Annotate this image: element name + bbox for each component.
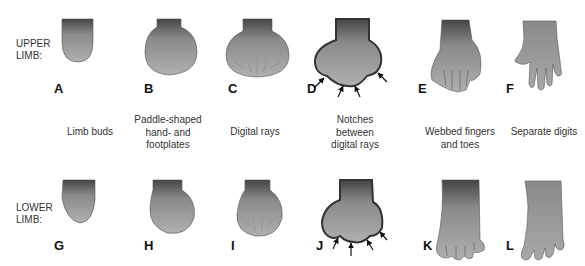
- stage-label-separate-digits: Separate digits: [502, 126, 585, 139]
- stage-label-notches: Notches between digital rays: [315, 114, 395, 152]
- letter-g: G: [54, 238, 64, 253]
- stage-label-limb-buds: Limb buds: [50, 126, 130, 139]
- letter-a: A: [54, 81, 63, 96]
- stage-label-paddle-shaped: Paddle-shaped hand- and footplates: [128, 114, 208, 152]
- shape-g-limb-bud: [62, 180, 95, 223]
- letter-d: D: [307, 81, 316, 96]
- stage-label-line: digital rays: [315, 139, 395, 152]
- stage-label-line: and toes: [415, 139, 505, 152]
- stage-label-line: Paddle-shaped: [128, 114, 208, 127]
- stage-label-line: Separate digits: [502, 126, 585, 139]
- stage-label-line: Digital rays: [215, 126, 295, 139]
- letter-k: K: [423, 238, 432, 253]
- stage-label-line: Webbed fingers: [415, 126, 505, 139]
- shape-e-webbed-fingers: [431, 20, 481, 92]
- letter-l: L: [506, 238, 514, 253]
- shape-i-digital-rays: [237, 180, 282, 236]
- shape-a-limb-bud: [62, 19, 93, 62]
- letter-j: J: [316, 238, 323, 253]
- stage-label-digital-rays: Digital rays: [215, 126, 295, 139]
- stage-label-line: Limb buds: [50, 126, 130, 139]
- shape-d-notches: [314, 19, 387, 97]
- letter-h: H: [144, 238, 153, 253]
- shape-l-separate-toes: [521, 181, 564, 260]
- stage-label-webbed: Webbed fingers and toes: [415, 126, 505, 151]
- letter-e: E: [418, 81, 427, 96]
- letter-c: C: [228, 81, 237, 96]
- letter-f: F: [506, 81, 514, 96]
- stage-label-line: hand- and: [128, 127, 208, 140]
- shape-k-webbed-toes: [436, 180, 484, 260]
- shape-h-paddle: [150, 180, 195, 233]
- letter-b: B: [144, 81, 153, 96]
- shape-c-digital-rays: [226, 19, 289, 77]
- letter-i: I: [231, 238, 235, 253]
- stage-label-line: between: [315, 127, 395, 140]
- stage-label-line: footplates: [128, 139, 208, 152]
- shape-f-separate-digits: [515, 21, 562, 90]
- shape-j-notches: [322, 180, 387, 256]
- shape-b-paddle: [145, 19, 197, 75]
- stage-label-line: Notches: [315, 114, 395, 127]
